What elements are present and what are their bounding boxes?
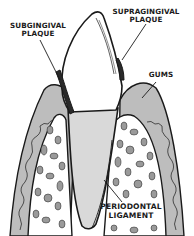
label-pdl-line2: LIGAMENT: [98, 211, 164, 220]
label-gums-text: GUMS: [148, 71, 174, 79]
leader-supragingival: [122, 24, 146, 60]
label-subgingival-plaque: SUBGINGIVAL PLAQUE: [8, 22, 68, 38]
label-pdl-line1: PERIODONTAL: [98, 202, 164, 211]
label-periodontal-ligament: PERIODONTAL LIGAMENT: [98, 202, 164, 220]
label-gums: GUMS: [148, 71, 174, 79]
leader-subgingival: [40, 40, 60, 80]
tooth-crown: [62, 12, 122, 112]
label-supragingival-line2: PLAQUE: [108, 16, 184, 24]
label-supragingival-plaque: SUPRAGINGIVAL PLAQUE: [108, 8, 184, 24]
label-subgingival-line2: PLAQUE: [8, 30, 68, 38]
